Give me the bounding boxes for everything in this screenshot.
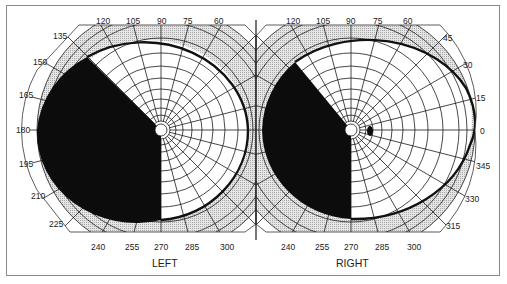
svg-text:105: 105	[126, 16, 140, 26]
svg-text:285: 285	[185, 242, 199, 252]
svg-text:90: 90	[157, 16, 167, 26]
svg-text:30: 30	[463, 60, 473, 70]
svg-text:75: 75	[373, 16, 383, 26]
svg-text:90: 90	[346, 16, 356, 26]
svg-text:195: 195	[19, 159, 33, 169]
svg-text:180: 180	[16, 125, 30, 135]
svg-text:105: 105	[316, 16, 330, 26]
svg-text:270: 270	[344, 242, 358, 252]
svg-text:240: 240	[281, 242, 295, 252]
visual-field-diagram: 120 105 90 75 60 135 150 165 180 195 210…	[0, 0, 507, 284]
svg-text:255: 255	[315, 242, 329, 252]
svg-text:270: 270	[154, 242, 168, 252]
svg-text:120: 120	[96, 16, 110, 26]
svg-text:165: 165	[19, 90, 33, 100]
svg-text:150: 150	[33, 57, 47, 67]
svg-text:345: 345	[476, 161, 490, 171]
svg-text:60: 60	[214, 16, 224, 26]
svg-text:255: 255	[125, 242, 139, 252]
left-eye-field	[30, 0, 290, 260]
svg-text:75: 75	[183, 16, 193, 26]
right-eye-label: RIGHT	[336, 257, 369, 269]
svg-text:45: 45	[443, 33, 453, 43]
svg-text:285: 285	[375, 242, 389, 252]
svg-text:300: 300	[407, 242, 421, 252]
svg-text:225: 225	[49, 219, 63, 229]
svg-text:240: 240	[91, 242, 105, 252]
svg-text:210: 210	[31, 191, 45, 201]
left-eye-label: LEFT	[152, 257, 178, 269]
svg-text:300: 300	[220, 242, 234, 252]
svg-text:120: 120	[286, 16, 300, 26]
svg-text:60: 60	[403, 16, 413, 26]
svg-text:330: 330	[465, 194, 479, 204]
svg-text:0: 0	[480, 126, 485, 136]
svg-text:135: 135	[53, 31, 67, 41]
svg-text:315: 315	[446, 221, 460, 231]
svg-text:15: 15	[476, 93, 486, 103]
blind-spot	[367, 126, 373, 136]
right-eye-field	[220, 0, 480, 260]
